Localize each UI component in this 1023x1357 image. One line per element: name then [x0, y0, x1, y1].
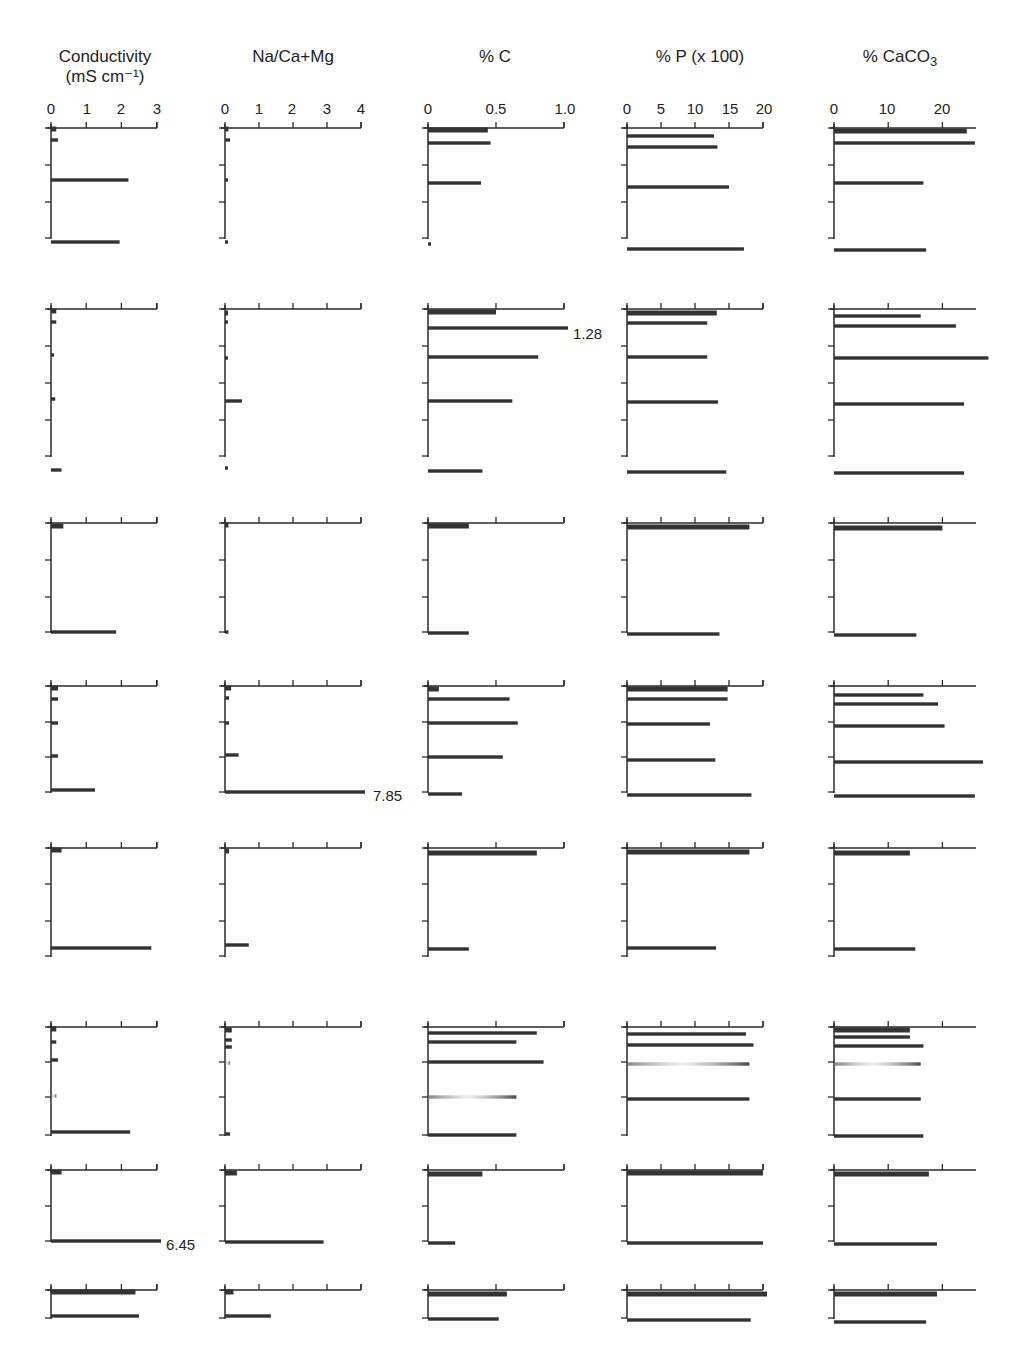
data-bar [428, 1060, 544, 1063]
profile-row-6 [45, 1021, 976, 1138]
data-bar [225, 466, 228, 469]
data-bar [225, 240, 228, 243]
panel-cond [45, 1284, 157, 1319]
data-bar [225, 1028, 232, 1033]
data-bar [834, 141, 975, 144]
data-bar [428, 851, 537, 856]
profile-row-1 [45, 122, 976, 252]
data-bar [51, 127, 56, 132]
data-bar [627, 321, 707, 324]
data-bar [51, 524, 63, 529]
panel-cond [45, 1164, 161, 1243]
data-bar [428, 399, 512, 402]
data-bar [225, 127, 228, 132]
panel-p [621, 1284, 767, 1322]
data-bar [225, 696, 229, 699]
data-bar [834, 724, 945, 727]
data-bar [834, 1172, 929, 1177]
data-bar [834, 314, 921, 317]
panel-cond [45, 517, 157, 634]
data-bar [225, 943, 249, 946]
panel-caco3 [828, 303, 988, 475]
profile-row-8 [45, 1284, 976, 1324]
data-bar [428, 242, 431, 245]
profile-row-3 [45, 517, 976, 637]
data-bar [51, 1290, 135, 1295]
data-bar [225, 320, 228, 323]
data-bar [428, 1031, 537, 1034]
data-bar [428, 326, 568, 329]
data-bar [428, 310, 496, 315]
data-bar [834, 1320, 926, 1323]
panel-cond [45, 303, 157, 472]
panel-cond [45, 122, 157, 244]
data-bar [834, 633, 916, 636]
data-bar [51, 1040, 56, 1043]
data-bar [428, 128, 488, 133]
panel-na [219, 1164, 361, 1244]
data-bar [428, 792, 462, 795]
data-bar [834, 129, 967, 134]
data-bar [627, 1062, 749, 1065]
data-bar [225, 790, 365, 793]
data-bar [51, 946, 151, 949]
data-bar [627, 946, 716, 949]
panel-c [422, 122, 564, 246]
data-bar [428, 355, 538, 358]
data-bar [428, 141, 491, 144]
panel-na [219, 303, 361, 470]
data-bar [428, 1317, 499, 1320]
data-bar [834, 693, 923, 696]
data-bar [225, 721, 229, 724]
data-bar [627, 1241, 763, 1244]
panel-caco3 [828, 680, 983, 798]
data-bar [225, 178, 228, 181]
data-bar [834, 248, 926, 251]
data-bar [51, 353, 54, 356]
data-bar [627, 722, 710, 725]
data-bar [834, 794, 975, 797]
data-bar [428, 755, 503, 758]
data-bar [51, 630, 116, 633]
data-bar [627, 687, 728, 692]
data-bar [428, 947, 469, 950]
data-bar [225, 523, 228, 528]
data-bar [428, 181, 481, 184]
panel-na [219, 842, 361, 957]
data-bar [627, 697, 728, 700]
data-bar [51, 178, 128, 181]
data-bar [834, 526, 942, 531]
data-bar [627, 247, 744, 250]
panel-p [621, 1164, 763, 1245]
data-bar [834, 1035, 910, 1038]
panel-p [621, 303, 763, 474]
panel-p [621, 680, 763, 797]
data-bar [51, 468, 62, 471]
data-bar [627, 400, 718, 403]
data-bar [225, 1290, 234, 1295]
panel-c [422, 842, 564, 957]
data-bar [225, 311, 228, 316]
data-bar [51, 320, 56, 323]
data-bar [627, 145, 717, 148]
data-bar [51, 1314, 139, 1317]
data-bar [428, 1095, 516, 1098]
panel-caco3 [828, 1021, 976, 1138]
data-bar [834, 1242, 937, 1245]
data-bar [225, 1314, 271, 1317]
data-bar [834, 1292, 937, 1297]
panel-c [422, 1164, 564, 1245]
panel-na [219, 1284, 361, 1319]
data-bar [428, 1040, 516, 1043]
profile-row-7 [45, 1164, 976, 1246]
data-bar [428, 1241, 455, 1244]
panel-p [621, 1021, 763, 1136]
data-bar [834, 356, 988, 359]
data-bar [51, 1027, 56, 1032]
profile-row-2 [45, 303, 988, 475]
data-bar [627, 1043, 753, 1046]
panel-caco3 [828, 122, 976, 252]
data-bar [51, 1170, 62, 1175]
panel-cond [45, 1021, 157, 1136]
data-bar [225, 1045, 232, 1048]
